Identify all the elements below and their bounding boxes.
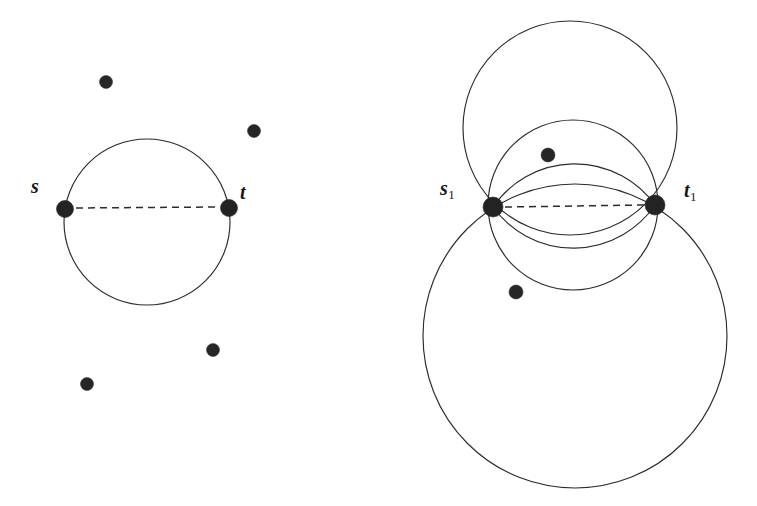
right-panel-group — [423, 21, 727, 488]
endpoint-s1[interactable] — [483, 197, 503, 217]
scatter-point-right-2 — [509, 285, 523, 299]
left-panel-group — [57, 76, 261, 391]
scatter-point-left-3 — [207, 344, 220, 357]
bottom-large-circle — [423, 184, 727, 488]
middle-circle — [488, 120, 658, 290]
label-t1: t1 — [684, 180, 696, 200]
scatter-point-left-4 — [81, 378, 94, 391]
endpoint-t[interactable] — [221, 200, 238, 217]
label-s1-subscript: 1 — [448, 187, 455, 202]
scatter-point-left-1 — [100, 76, 113, 89]
figure-canvas: s t s1 t1 — [0, 0, 757, 506]
right-chord-s1t1 — [505, 205, 644, 207]
label-t: t — [240, 182, 246, 202]
label-t1-subscript: 1 — [690, 189, 697, 204]
diagram-svg — [0, 0, 757, 506]
scatter-point-left-2 — [248, 125, 261, 138]
left-circle — [64, 139, 230, 305]
label-s: s — [31, 176, 39, 196]
endpoint-t1[interactable] — [645, 195, 665, 215]
label-t1-base: t — [684, 179, 690, 201]
label-s1: s1 — [440, 178, 454, 198]
left-chord-st — [76, 207, 219, 208]
lens-upper-arc — [493, 164, 655, 207]
lens-lower-arc — [493, 205, 655, 248]
endpoint-s[interactable] — [57, 201, 74, 218]
label-s1-base: s — [440, 177, 448, 199]
scatter-point-right-1 — [541, 148, 555, 162]
